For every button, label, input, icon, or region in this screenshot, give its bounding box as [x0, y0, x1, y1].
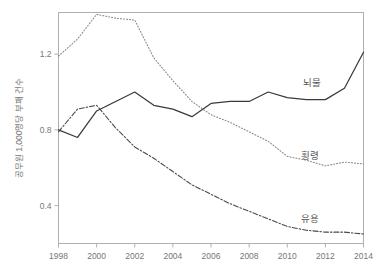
x-axis-tick-label: 2000: [87, 251, 106, 261]
y-axis-tick-label: 0.8: [40, 125, 52, 135]
chart-container: 0.40.81.21998200020022004200620082010201…: [0, 0, 380, 280]
y-axis-tick-label: 1.2: [40, 49, 52, 59]
line-chart: 0.40.81.21998200020022004200620082010201…: [0, 0, 380, 280]
x-axis-tick-label: 2006: [202, 251, 221, 261]
series-line-횡령: [59, 14, 364, 165]
x-axis-tick-label: 2004: [163, 251, 182, 261]
x-axis-tick-label: 2010: [278, 251, 297, 261]
x-axis-tick-label: 2002: [125, 251, 144, 261]
x-axis-tick-label: 2014: [354, 251, 373, 261]
series-label-뇌물: 뇌물: [303, 77, 321, 88]
plot-frame: [59, 13, 364, 244]
y-axis-title: 공무원 1,000명당 부패 건수: [14, 78, 24, 178]
x-axis-tick-label: 2012: [316, 251, 335, 261]
series-label-횡령: 횡령: [301, 150, 319, 161]
x-axis-tick-label: 1998: [49, 251, 68, 261]
series-line-뇌물: [59, 52, 364, 137]
y-axis-tick-label: 0.4: [40, 201, 52, 211]
series-label-유용: 유용: [301, 213, 319, 224]
x-axis-tick-label: 2008: [240, 251, 259, 261]
